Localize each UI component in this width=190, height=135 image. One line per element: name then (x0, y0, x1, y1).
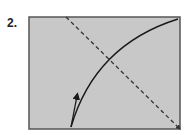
diagram-canvas (0, 0, 190, 135)
figure-box (29, 17, 180, 129)
